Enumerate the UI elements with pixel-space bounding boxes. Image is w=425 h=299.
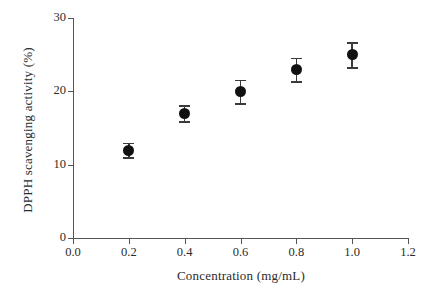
y-axis-title: DPPH scavenging activity (%) [20, 20, 36, 240]
data-point-marker [235, 86, 246, 97]
data-point-marker [291, 64, 302, 75]
x-tick-mark [129, 239, 130, 244]
x-tick-mark [185, 239, 186, 244]
x-tick-mark [296, 239, 297, 244]
error-bar-cap-lower [291, 81, 302, 83]
x-tick-mark [352, 239, 353, 244]
x-tick-label: 0.0 [51, 246, 95, 259]
error-bar-cap-lower [179, 121, 190, 123]
x-tick-mark [241, 239, 242, 244]
data-point-marker [179, 108, 190, 119]
x-tick-mark [73, 239, 74, 244]
error-bar-cap-lower [123, 157, 134, 159]
error-bar-cap-lower [235, 103, 246, 105]
x-axis-title: Concentration (mg/mL) [73, 268, 409, 284]
x-tick-label: 0.4 [163, 246, 207, 259]
error-bar-cap-upper [291, 58, 302, 60]
x-tick-label: 0.6 [219, 246, 263, 259]
x-tick-label: 0.8 [274, 246, 318, 259]
x-tick-label: 1.2 [386, 246, 425, 259]
data-point-marker [123, 145, 134, 156]
data-point-marker [347, 49, 358, 60]
plot-area [73, 18, 408, 238]
error-bar-cap-upper [179, 105, 190, 107]
error-bar-cap-upper [123, 143, 134, 145]
x-tick-label: 1.0 [330, 246, 374, 259]
error-bar-cap-lower [347, 67, 358, 69]
chart-figure: 0102030 0.00.20.40.60.81.01.2 Concentrat… [0, 0, 425, 299]
x-tick-mark [408, 239, 409, 244]
error-bar-cap-upper [235, 80, 246, 82]
y-tick-label-wrap: 30 [16, 18, 66, 19]
error-bar-cap-upper [347, 42, 358, 44]
x-tick-label: 0.2 [107, 246, 151, 259]
